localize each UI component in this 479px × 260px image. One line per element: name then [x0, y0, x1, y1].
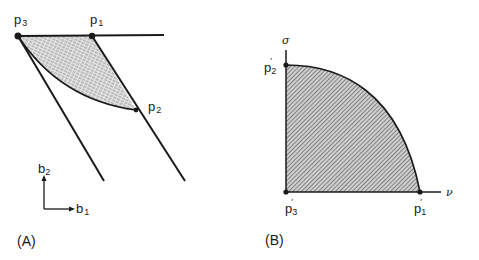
nu-axis-label: ν: [446, 186, 453, 199]
feasible-region-a: [18, 36, 136, 110]
diagram-canvas: p3 p1 p2 b2 b1 (A) σ ν p2′ p3′ p1′ (: [0, 0, 479, 260]
label-p2-prime: p2′: [264, 56, 276, 76]
sigma-axis-label: σ: [282, 34, 290, 47]
label-p2: p2: [148, 99, 161, 115]
basis-axes: [42, 175, 76, 212]
feasible-region-b: [286, 65, 420, 192]
label-p3: p3: [14, 12, 27, 28]
panel-a-label: (A): [17, 233, 36, 249]
point-p2: [134, 108, 139, 113]
right-slanted-line: [92, 36, 185, 181]
point-p1: [89, 33, 95, 39]
panel-b: σ ν p2′ p3′ p1′ (B): [264, 34, 453, 248]
point-p2-prime: [283, 62, 288, 67]
point-p3-prime: [283, 189, 288, 194]
panel-a: p3 p1 p2 b2 b1 (A): [14, 12, 185, 249]
label-p1: p1: [90, 12, 103, 28]
point-p1-prime: [417, 189, 422, 194]
point-p3: [15, 33, 22, 40]
label-b2: b2: [38, 161, 50, 177]
label-b1: b1: [76, 201, 89, 217]
panel-b-label: (B): [265, 232, 284, 248]
arrow-right-icon: [69, 207, 75, 212]
label-p1-prime: p1′: [414, 197, 426, 217]
label-p3-prime: p3′: [285, 197, 297, 217]
